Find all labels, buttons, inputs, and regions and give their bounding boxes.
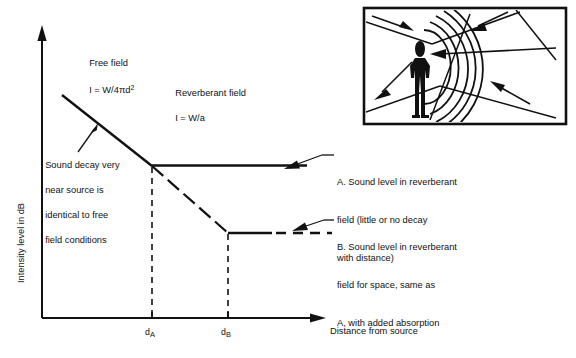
decay-note-line-3: identical to free <box>45 210 108 220</box>
droplines <box>152 167 228 318</box>
decay-note-line-4: field conditions <box>45 235 107 245</box>
tick-da-subscript: A <box>150 330 155 339</box>
reverberant-field-title: Reverberant field <box>175 88 246 98</box>
curve-b-line-2: field for space, same as <box>337 279 457 292</box>
reverberant-field-formula: I = W/a <box>175 113 205 123</box>
decay-note-leader-arrowhead <box>91 123 99 134</box>
y-axis-title: Intensity level in dB <box>16 178 26 308</box>
curve-a-line-1: A. Sound level in reverberant <box>337 176 457 189</box>
y-axis-arrowhead <box>37 25 46 41</box>
decay-note-line-2: near source is <box>45 185 103 195</box>
curve-b-line-1: B. Sound level in reverberant <box>337 241 457 254</box>
reverberant-field-annotation: Reverberant field I = W/a <box>170 74 246 124</box>
x-axis-title: Distance from source <box>330 325 418 338</box>
room-reverberation-inset <box>364 8 566 130</box>
decay-note-annotation: Sound decay very near source is identica… <box>40 146 120 247</box>
x-tick-label-db: dB <box>221 326 231 341</box>
extrapolated-decay-line <box>152 166 228 233</box>
free-field-title: Free field <box>89 58 128 68</box>
curve-b-label: B. Sound level in reverberant field for … <box>337 216 457 342</box>
label-b-leader-arrowhead <box>292 223 308 232</box>
tick-db-subscript: B <box>226 330 231 339</box>
x-tick-label-da: dA <box>145 326 155 341</box>
free-field-formula: I = W/4πd2 <box>89 85 134 95</box>
free-field-exponent: 2 <box>130 84 134 91</box>
x-axis-arrowhead <box>310 313 326 322</box>
decay-note-line-1: Sound decay very <box>45 160 119 170</box>
free-field-annotation: Free field I = W/4πd2 <box>84 44 134 96</box>
